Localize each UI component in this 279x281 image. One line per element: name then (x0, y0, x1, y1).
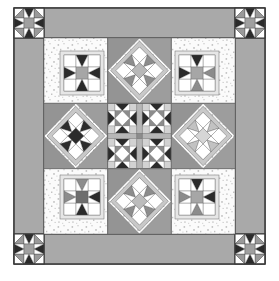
on-point-star-bottom-center (108, 169, 172, 234)
on-point-star-middle-left (44, 103, 108, 168)
framed-star-top-left (44, 38, 108, 103)
framed-star-top-right (171, 38, 235, 103)
border-right (235, 38, 265, 234)
corner-star-bottom-left (14, 234, 44, 264)
framed-star-bottom-left (44, 169, 108, 234)
center-medallion (108, 103, 172, 168)
corner-star-top-left (14, 8, 44, 38)
corner-star-bottom-right (235, 234, 265, 264)
border-top (44, 8, 235, 38)
quilt-diagram (0, 0, 279, 281)
framed-star-bottom-right (171, 169, 235, 234)
quilt-svg (0, 0, 279, 281)
border-left (14, 38, 44, 234)
on-point-star-top-center (108, 38, 172, 103)
border-bottom (44, 234, 235, 264)
corner-star-top-right (235, 8, 265, 38)
on-point-star-middle-right (171, 103, 235, 168)
